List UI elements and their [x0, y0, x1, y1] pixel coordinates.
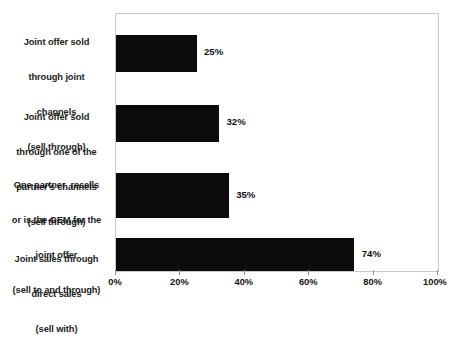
category-label-0-line1: Joint offer sold [0, 37, 113, 49]
category-label-3: Joint sales through direct sales (sell w… [0, 231, 113, 338]
x-tick-mark-3 [308, 270, 309, 275]
bar-value-0: 25% [204, 47, 223, 57]
bar-value-3: 74% [362, 249, 381, 259]
x-tick-label-4: 80% [363, 277, 382, 287]
x-tick-label-1: 20% [170, 277, 189, 287]
category-label-3-line1: Joint sales through [0, 254, 113, 266]
bar-0 [116, 35, 197, 72]
category-label-2-line1: One partner resells [0, 180, 113, 192]
category-label-3-line2: direct sales [0, 289, 113, 301]
x-tick-mark-2 [244, 270, 245, 275]
x-tick-mark-4 [373, 270, 374, 275]
x-tick-mark-5 [437, 270, 438, 275]
x-axis: 0% 20% 40% 60% 80% 100% [115, 270, 437, 301]
x-tick-label-3: 60% [299, 277, 318, 287]
category-label-2-line2: or is the OEM for the [0, 215, 113, 227]
x-tick-label-0: 0% [108, 277, 121, 287]
bar-1 [116, 105, 219, 142]
category-label-1-line1: Joint offer sold [0, 112, 113, 124]
category-label-3-line3: (sell with) [0, 324, 113, 336]
x-tick-mark-1 [179, 270, 180, 275]
category-axis-labels: Joint offer sold through joint channels … [0, 0, 113, 271]
category-label-0-line2: through joint [0, 72, 113, 84]
bar-3 [116, 238, 354, 271]
bar-value-2: 35% [236, 190, 255, 200]
x-tick-mark-0 [115, 270, 116, 275]
bar-value-1: 32% [227, 117, 246, 127]
x-tick-label-2: 40% [234, 277, 253, 287]
bar-2 [116, 173, 229, 218]
plot-area: 25% 32% 35% 74% [115, 13, 439, 272]
x-tick-label-5: 100% [423, 277, 447, 287]
